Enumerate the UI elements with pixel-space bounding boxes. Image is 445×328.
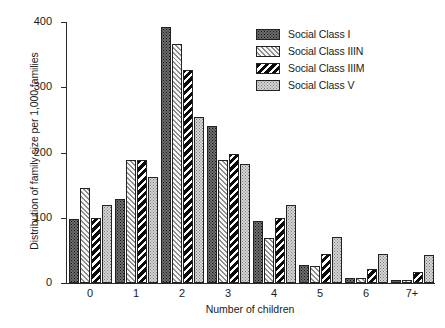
bar	[264, 238, 274, 283]
bar	[240, 164, 250, 283]
bar	[321, 254, 331, 283]
bar	[172, 44, 182, 283]
x-axis-tick-label: 4	[251, 287, 297, 299]
legend-item: Social Class V	[256, 77, 365, 93]
x-axis-tick-label: 1	[113, 287, 159, 299]
x-axis-tick-label: 7+	[389, 287, 435, 299]
x-axis-title: Number of children	[66, 303, 434, 315]
legend-swatch	[256, 80, 280, 91]
bar-groups: 01234567+	[67, 22, 435, 283]
bar	[218, 160, 228, 283]
x-axis-tick-label: 2	[159, 287, 205, 299]
y-axis-tick: 200	[61, 153, 66, 154]
legend-label: Social Class V	[288, 79, 354, 91]
y-axis-tick-label: 100	[34, 211, 52, 223]
bar	[126, 160, 136, 283]
y-axis-tick-label: 200	[34, 146, 52, 158]
bar	[391, 280, 401, 283]
bar-group: 3	[205, 22, 251, 283]
y-axis-tick: 400	[61, 22, 66, 23]
bar	[148, 177, 158, 283]
bar	[91, 218, 101, 283]
bar-group: 1	[113, 22, 159, 283]
y-axis-tick-label: 400	[34, 15, 52, 27]
bar	[115, 199, 125, 283]
bar	[345, 278, 355, 283]
x-axis-tick-label: 6	[343, 287, 389, 299]
bar	[402, 280, 412, 283]
bar	[310, 266, 320, 283]
bar-group: 7+	[389, 22, 435, 283]
bar	[207, 126, 217, 283]
x-axis-tick-label: 5	[297, 287, 343, 299]
y-axis-tick: 100	[61, 218, 66, 219]
legend-label: Social Class I	[288, 28, 350, 40]
x-axis-tick-label: 0	[67, 287, 113, 299]
bar	[332, 237, 342, 283]
y-axis-tick-label: 0	[46, 276, 52, 288]
bar	[424, 255, 434, 283]
bar	[183, 70, 193, 283]
bar	[367, 269, 377, 283]
bar	[229, 154, 239, 283]
legend-label: Social Class IIIN	[288, 45, 363, 57]
x-axis-line	[66, 283, 435, 284]
legend-swatch	[256, 63, 280, 74]
bar	[253, 221, 263, 283]
bar	[286, 205, 296, 283]
plot-area: 0100200300400 01234567+	[66, 22, 434, 283]
bar	[194, 117, 204, 283]
legend-item: Social Class IIIM	[256, 60, 365, 76]
bar	[69, 219, 79, 283]
legend: Social Class ISocial Class IIINSocial Cl…	[256, 26, 365, 94]
bar	[137, 160, 147, 283]
legend-item: Social Class IIIN	[256, 43, 365, 59]
bar	[413, 272, 423, 283]
y-axis-tick: 0	[61, 283, 66, 284]
y-axis-tick-label: 300	[34, 80, 52, 92]
bar	[80, 188, 90, 283]
bar	[275, 218, 285, 283]
legend-swatch	[256, 29, 280, 40]
bar	[299, 265, 309, 283]
y-axis-tick: 300	[61, 87, 66, 88]
bar-group: 0	[67, 22, 113, 283]
bar	[161, 27, 171, 283]
bar	[102, 205, 112, 283]
bar	[356, 278, 366, 283]
x-axis-tick-label: 3	[205, 287, 251, 299]
bar	[378, 254, 388, 283]
legend-swatch	[256, 46, 280, 57]
bar-chart: Distribution of family size per 1,000 fa…	[0, 0, 445, 328]
legend-item: Social Class I	[256, 26, 365, 42]
legend-label: Social Class IIIM	[288, 62, 365, 74]
bar-group: 2	[159, 22, 205, 283]
